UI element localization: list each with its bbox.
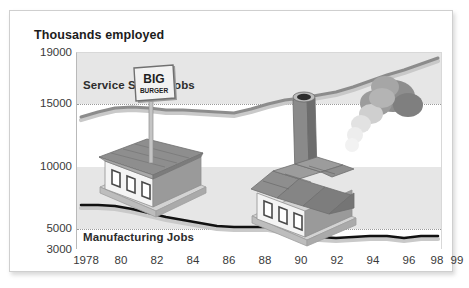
x-tick-90: 90 (295, 254, 308, 266)
y-axis-labels: 19000 15000 10000 5000 3000 (24, 11, 72, 288)
y-tick-5000: 5000 (26, 222, 72, 234)
chart-figure: Thousands employed 19000 15000 10000 500… (0, 0, 469, 288)
y-tick-15000: 15000 (26, 97, 72, 109)
x-tick-94: 94 (367, 254, 380, 266)
x-axis-labels: 1978 80 82 84 86 88 90 92 94 96 98 99 (76, 254, 442, 272)
service-sector-label: Service Sector Jobs (83, 79, 195, 91)
y-tick-19000: 19000 (26, 46, 72, 58)
manufacturing-label: Manufacturing Jobs (83, 231, 194, 243)
x-tick-88: 88 (259, 254, 272, 266)
x-tick-98: 98 (431, 254, 444, 266)
chart-panel: Thousands employed 19000 15000 10000 500… (9, 10, 453, 272)
x-tick-80: 80 (115, 254, 128, 266)
y-tick-3000: 3000 (26, 243, 72, 255)
x-tick-92: 92 (331, 254, 344, 266)
x-tick-84: 84 (187, 254, 200, 266)
x-tick-99: 99 (451, 254, 464, 266)
x-tick-96: 96 (403, 254, 416, 266)
y-tick-10000: 10000 (26, 160, 72, 172)
plot-area: Service Sector Jobs Manufacturing Jobs (76, 52, 442, 249)
x-tick-82: 82 (151, 254, 164, 266)
x-tick-86: 86 (223, 254, 236, 266)
x-tick-1978: 1978 (73, 254, 99, 266)
